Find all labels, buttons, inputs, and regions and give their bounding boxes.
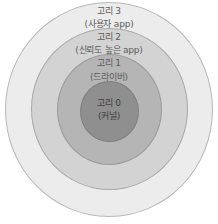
ring-2-title: 고리 2 <box>0 31 218 43</box>
protection-rings-diagram: 고리 3 (사용자 app) 고리 2 (신뢰도 높은 app) 고리 1 (드… <box>0 0 218 224</box>
ring-3-subtitle: (사용자 app) <box>0 18 218 30</box>
ring-3-title: 고리 3 <box>0 5 218 17</box>
ring-1-subtitle: (드라이버) <box>0 71 218 83</box>
ring-2-subtitle: (신뢰도 높은 app) <box>0 44 218 56</box>
ring-1-title: 고리 1 <box>0 57 218 69</box>
ring-0-title: 고리 0 <box>0 97 218 109</box>
ring-0-subtitle: (커널) <box>0 110 218 122</box>
